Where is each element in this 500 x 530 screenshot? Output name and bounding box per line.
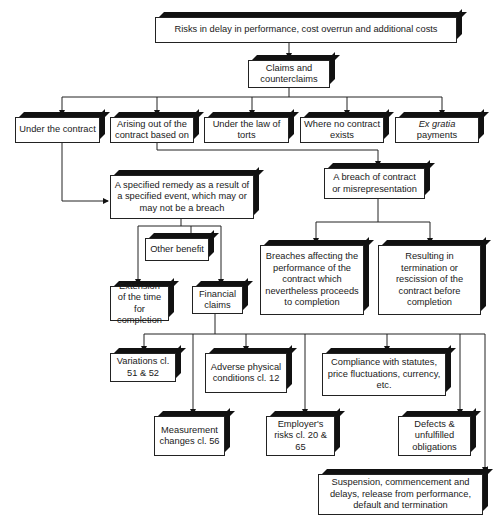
compliance-box: Compliance with statutes, price fluctuat… xyxy=(322,353,446,396)
claims-label: Claims and counterclaims xyxy=(252,63,326,86)
basis-ex-gratia: Ex gratiapayments xyxy=(395,117,479,143)
basis-law-of-torts: Under the law of torts xyxy=(204,117,289,143)
extension-box: Extension of the time for completion xyxy=(110,286,169,321)
specified-remedy-box: A specified remedy as a result of a spec… xyxy=(110,175,254,219)
other-benefit-box: Other benefit xyxy=(145,238,209,261)
root-label: Risks in delay in performance, cost over… xyxy=(174,24,437,36)
financial-claims-box: Financial claims xyxy=(192,286,243,314)
variations-box: Variations cl. 51 & 52 xyxy=(110,353,176,382)
resulting-termination-box: Resulting in termination or rescission o… xyxy=(378,245,481,315)
adverse-conditions-box: Adverse physical conditions cl. 12 xyxy=(205,353,287,393)
basis-under-contract: Under the contract xyxy=(15,117,100,143)
basis-no-contract: Where no contract exists xyxy=(300,117,384,143)
defects-box: Defects & unfulfilled obligations xyxy=(398,416,471,456)
measurement-box: Measurement changes cl. 56 xyxy=(154,416,225,456)
suspension-box: Suspension, commencement and delays, rel… xyxy=(318,474,483,515)
breaches-affecting-box: Breaches affecting the performance of th… xyxy=(260,245,364,315)
claims-box: Claims and counterclaims xyxy=(248,60,330,88)
breach-box: A breach of contract or misrepresentatio… xyxy=(324,168,425,199)
employers-risks-box: Employer's risks cl. 20 & 65 xyxy=(266,416,335,456)
root-box: Risks in delay in performance, cost over… xyxy=(155,17,457,43)
basis-arising-out: Arising out of the contract based on xyxy=(110,117,194,143)
